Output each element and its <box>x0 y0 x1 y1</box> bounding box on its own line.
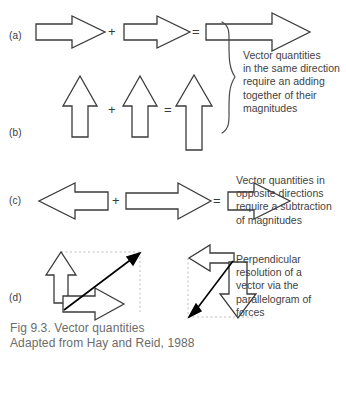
description-same-direction: Vector quantities in the same direction … <box>243 49 343 115</box>
operator-plus: + <box>108 24 116 39</box>
block-arrow-right-icon <box>126 183 211 219</box>
row-label-c: (c) <box>9 195 21 206</box>
figure-caption: Fig 9.3. Vector quantities Adapted from … <box>10 321 290 351</box>
block-arrow-up-icon <box>63 76 97 137</box>
vector-quantities-figure: (a) <box>0 0 346 413</box>
operator-plus: + <box>108 102 116 117</box>
block-arrow-left-icon <box>39 183 108 219</box>
operator-plus: + <box>112 193 120 208</box>
block-arrow-right-icon <box>124 16 190 48</box>
block-arrow-up-icon <box>123 76 157 137</box>
description-perpendicular-resolution: Perpendicular resolution of a vector via… <box>236 253 336 319</box>
operator-equals: = <box>192 24 200 39</box>
block-arrow-up-icon <box>176 75 212 150</box>
block-arrow-right-icon <box>36 16 105 48</box>
block-arrow-left-icon <box>189 245 234 271</box>
row-label-b: (b) <box>9 127 22 138</box>
operator-equals: = <box>213 193 221 208</box>
row-label-d: (d) <box>9 292 22 303</box>
solid-resultant-arrow-icon <box>189 261 233 317</box>
operator-equals: = <box>164 102 172 117</box>
block-arrow-right-icon <box>206 13 310 51</box>
description-opposite-direction: Vector quantities in opposite directions… <box>236 174 344 227</box>
